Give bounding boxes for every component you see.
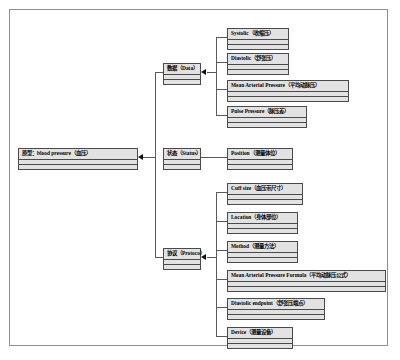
node-compartment bbox=[228, 45, 288, 49]
node-compartment bbox=[228, 165, 292, 169]
arrow-into-data bbox=[201, 69, 206, 75]
node-location[interactable]: Location（身体部位） bbox=[227, 212, 298, 234]
connector-data-bus bbox=[216, 37, 217, 115]
node-compartment bbox=[19, 165, 137, 169]
node-compartment bbox=[228, 344, 292, 348]
node-device[interactable]: Device（测量设备） bbox=[227, 327, 293, 349]
node-cuff-size[interactable]: Cuff size（血压带尺寸） bbox=[227, 183, 303, 205]
node-compartment bbox=[228, 123, 306, 127]
node-mean-arterial-pressure-formula-label: Mean Arterial Pressure Formula（平均动脉压公式） bbox=[228, 271, 385, 282]
connector-protocol-to-map-formula bbox=[216, 279, 227, 280]
node-compartment bbox=[164, 265, 200, 269]
node-compartment bbox=[228, 97, 348, 101]
node-mean-arterial-pressure-formula[interactable]: Mean Arterial Pressure Formula（平均动脉压公式） bbox=[227, 270, 386, 292]
connector-data-bus-stub bbox=[207, 72, 216, 73]
node-protocol-label: 协议（Protoco） bbox=[164, 249, 200, 260]
node-device-label: Device（测量设备） bbox=[228, 328, 292, 339]
connector-spine-to-data bbox=[155, 72, 163, 73]
node-pulse-pressure-label: Pulse Pressure（脉压差） bbox=[228, 107, 306, 118]
node-compartment bbox=[228, 200, 302, 204]
connector-protocol-to-method bbox=[216, 250, 227, 251]
node-mean-arterial-pressure[interactable]: Mean Arterial Pressure（平均动脉压） bbox=[227, 80, 349, 102]
node-data-label: 数据（Data） bbox=[164, 64, 200, 75]
connector-data-to-diastolic bbox=[216, 62, 227, 63]
connector-data-to-systolic bbox=[216, 37, 227, 38]
connector-protocol-to-diastolic-endpoint bbox=[216, 307, 227, 308]
connector-protocol-to-device bbox=[216, 336, 227, 337]
node-method-label: Method（测量方法） bbox=[228, 242, 297, 253]
node-compartment bbox=[228, 229, 297, 233]
node-mean-arterial-pressure-label: Mean Arterial Pressure（平均动脉压） bbox=[228, 81, 348, 92]
connector-data-to-pulse-pressure bbox=[216, 115, 227, 116]
node-data[interactable]: 数据（Data） bbox=[163, 63, 201, 85]
node-root-label: 原型：blood pressure（血压） bbox=[19, 149, 137, 160]
node-cuff-size-label: Cuff size（血压带尺寸） bbox=[228, 184, 302, 195]
node-systolic-label: Systolic（收缩压） bbox=[228, 29, 288, 40]
node-systolic[interactable]: Systolic（收缩压） bbox=[227, 28, 289, 50]
node-status[interactable]: 状态（Status） bbox=[163, 148, 201, 170]
node-status-label: 状态（Status） bbox=[164, 149, 200, 160]
connector-status-to-position bbox=[201, 157, 227, 158]
node-diastolic-endpoint-label: Diastolic endpoint（舒张压端点） bbox=[228, 299, 324, 310]
connector-spine-to-protocol bbox=[155, 257, 163, 258]
node-diastolic-label: Diastolic（舒张压） bbox=[228, 54, 288, 65]
node-pulse-pressure[interactable]: Pulse Pressure（脉压差） bbox=[227, 106, 307, 128]
connector-protocol-to-cuff-size bbox=[216, 192, 227, 193]
node-compartment bbox=[228, 70, 288, 74]
node-diastolic-endpoint[interactable]: Diastolic endpoint（舒张压端点） bbox=[227, 298, 325, 320]
node-compartment bbox=[228, 315, 324, 319]
node-compartment bbox=[228, 287, 385, 291]
node-position-label: Position（测量体位） bbox=[228, 149, 292, 160]
node-location-label: Location（身体部位） bbox=[228, 213, 297, 224]
node-compartment bbox=[164, 80, 200, 84]
connector-root-to-spine bbox=[141, 157, 155, 158]
connector-protocol-bus-stub bbox=[207, 257, 216, 258]
node-compartment bbox=[164, 165, 200, 169]
node-position[interactable]: Position（测量体位） bbox=[227, 148, 293, 170]
node-compartment bbox=[228, 258, 297, 262]
diagram-frame: 原型：blood pressure（血压） 数据（Data） 状态（Status… bbox=[9, 9, 388, 346]
connector-protocol-to-location bbox=[216, 221, 227, 222]
node-root[interactable]: 原型：blood pressure（血压） bbox=[18, 148, 138, 170]
connector-data-to-map bbox=[216, 89, 227, 90]
node-diastolic[interactable]: Diastolic（舒张压） bbox=[227, 53, 289, 75]
arrow-into-root bbox=[138, 154, 143, 160]
node-protocol[interactable]: 协议（Protoco） bbox=[163, 248, 201, 270]
connector-protocol-bus bbox=[216, 192, 217, 336]
connector-spine bbox=[155, 72, 156, 258]
node-method[interactable]: Method（测量方法） bbox=[227, 241, 298, 263]
diagram-canvas: 原型：blood pressure（血压） 数据（Data） 状态（Status… bbox=[0, 0, 400, 360]
